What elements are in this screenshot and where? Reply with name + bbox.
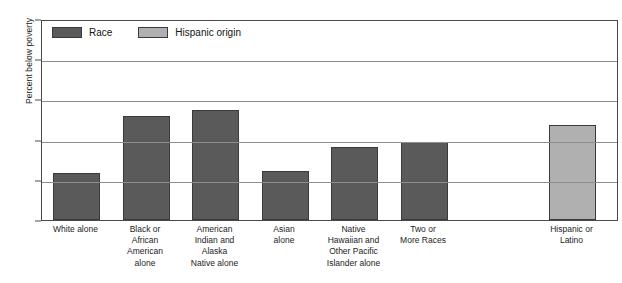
chart-legend: Race Hispanic origin: [52, 27, 241, 38]
category-label-6: Hispanic orLatino: [532, 224, 612, 246]
bar-6: [549, 125, 596, 220]
category-label-3: Asianalone: [244, 224, 324, 246]
poverty-bar-chart: Percent below poverty Race Hispanic orig…: [0, 0, 622, 283]
category-label-1: Black orAfricanAmericanalone: [105, 224, 185, 269]
y-tick-mark-50: [35, 20, 41, 21]
legend-item-race: Race: [52, 27, 112, 38]
category-label-5: Two orMore Races: [383, 224, 463, 246]
bar-4: [331, 147, 378, 220]
y-tick-mark-10: [35, 180, 41, 181]
y-axis-title: Percent below poverty: [24, 0, 34, 146]
legend-item-hispanic-origin: Hispanic origin: [138, 27, 241, 38]
bars-layer: [42, 21, 617, 220]
bar-0: [53, 173, 100, 220]
gridline-20: [42, 142, 617, 143]
bar-1: [123, 116, 170, 220]
bar-3: [262, 171, 309, 220]
x-axis-category-labels: White aloneBlack orAfricanAmericanaloneA…: [41, 224, 618, 282]
legend-swatch-hispanic-origin-icon: [138, 27, 168, 38]
legend-swatch-race-icon: [52, 27, 82, 38]
category-label-2: AmericanIndian andAlaskaNative alone: [175, 224, 255, 269]
y-tick-mark-30: [35, 100, 41, 101]
y-tick-mark-0: [35, 221, 41, 222]
gridline-30: [42, 101, 617, 102]
category-label-0: White alone: [36, 224, 116, 235]
legend-label-hispanic-origin: Hispanic origin: [175, 27, 241, 38]
gridline-40: [42, 61, 617, 62]
plot-area: Race Hispanic origin: [41, 20, 618, 221]
category-label-4: NativeHawaiian andOther PacificIslander …: [314, 224, 394, 269]
legend-label-race: Race: [89, 27, 112, 38]
gridline-10: [42, 182, 617, 183]
y-tick-mark-40: [35, 60, 41, 61]
y-tick-mark-20: [35, 140, 41, 141]
bar-2: [192, 110, 239, 220]
